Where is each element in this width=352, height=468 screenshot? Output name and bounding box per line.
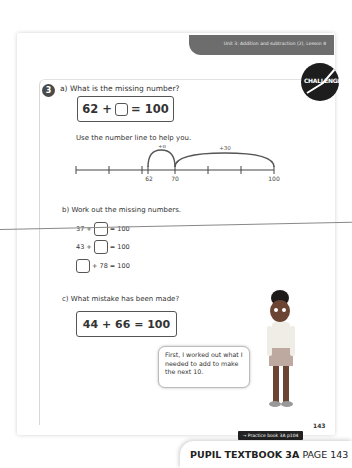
equation-right: = 100: [110, 243, 130, 251]
part-b-equation-2: 43 + = 100: [76, 240, 130, 254]
number-line: +8 +30 62 70 100: [40, 145, 300, 190]
answer-blank[interactable]: [94, 222, 108, 236]
svg-text:70: 70: [171, 175, 179, 182]
part-b-equation-3: + 78 = 100: [76, 259, 130, 273]
girl-character-illustration: [258, 290, 308, 415]
unit-header-bar: Unit 3: Addition and subtraction (2), Le…: [189, 35, 334, 55]
page-number: 143: [313, 422, 326, 429]
equation-left: 43 +: [76, 243, 92, 251]
page-label: PAGE 143: [302, 449, 348, 460]
answer-blank[interactable]: [76, 259, 90, 273]
textbook-name: PUPIL TEXTBOOK 3A: [190, 449, 299, 460]
svg-text:+8: +8: [158, 145, 167, 149]
challenge-label: CHALLENGE: [304, 77, 339, 84]
svg-text:62: 62: [145, 175, 153, 182]
answer-blank[interactable]: [94, 240, 108, 254]
number-line-hint: Use the number line to help you.: [76, 134, 191, 142]
part-a-equation: 62 + = 100: [77, 96, 174, 122]
equation-right: + 78 = 100: [92, 262, 130, 270]
part-b-equation-1: 37 + = 100: [76, 222, 130, 236]
challenge-badge: CHALLENGE: [301, 63, 339, 101]
speech-bubble: First, I worked out what I needed to add…: [158, 346, 250, 388]
unit-label: Unit 3: Addition and subtraction (2), Le…: [224, 41, 326, 46]
page-tag: PUPIL TEXTBOOK 3A PAGE 143: [180, 441, 352, 468]
page-tag-text: PUPIL TEXTBOOK 3A PAGE 143: [190, 449, 348, 460]
svg-text:100: 100: [268, 175, 280, 182]
part-c-label: c) What mistake has been made?: [62, 295, 179, 303]
practice-book-link[interactable]: → Practice book 3A p104: [238, 431, 303, 440]
equation-right: = 100: [131, 102, 169, 116]
part-c-equation: 44 + 66 = 100: [76, 311, 177, 337]
part-b-label: b) Work out the missing numbers.: [62, 206, 181, 214]
answer-blank[interactable]: [115, 103, 128, 116]
svg-text:+30: +30: [219, 145, 231, 151]
part-a-label: a) What is the missing number?: [60, 84, 180, 93]
question-number: 3: [42, 84, 55, 97]
equation-left: 62 +: [82, 102, 112, 116]
